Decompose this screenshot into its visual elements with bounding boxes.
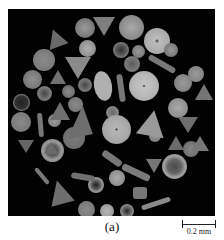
diatom-round: [62, 85, 75, 98]
diatom-elongated: [92, 70, 115, 103]
diatom-round: [78, 78, 92, 92]
diatom-round: [13, 94, 30, 111]
diatom-triangular: [65, 57, 91, 79]
diatom-triangular: [44, 142, 58, 154]
diatom-round: [129, 71, 159, 101]
diatom-triangular: [18, 140, 34, 153]
diatom-round: [162, 154, 187, 179]
diatom-triangular: [45, 177, 74, 206]
diatom-triangular: [61, 105, 93, 140]
diatom-round: [33, 49, 55, 71]
diatom-round: [119, 15, 144, 40]
scale-bar: 0.2 mm: [182, 220, 216, 240]
diatom-round: [109, 170, 125, 186]
diatom-round: [124, 56, 140, 72]
diatom-round: [23, 70, 42, 89]
diatom-round: [100, 204, 114, 216]
diatom-triangular: [44, 26, 69, 50]
micrograph-panel: [8, 9, 215, 216]
diatom-elongated: [116, 74, 126, 103]
diatom-triangular: [146, 159, 162, 173]
diatom-round: [75, 18, 95, 38]
diatom-round: [120, 204, 134, 216]
diatom-triangular: [50, 70, 66, 84]
diatom-elongated: [133, 187, 147, 199]
diatom-triangular: [191, 136, 209, 151]
diatom-elongated: [101, 149, 123, 167]
diatom-elongated: [71, 172, 96, 182]
diatom-round: [102, 115, 131, 144]
diatom-elongated: [34, 167, 50, 185]
diatom-round: [164, 43, 178, 57]
diatom-round: [168, 98, 188, 118]
diatom-triangular: [93, 17, 115, 36]
diatom-round: [78, 201, 95, 216]
diatom-round: [37, 86, 52, 101]
diatom-triangular: [168, 136, 184, 150]
diatom-round: [188, 66, 204, 82]
scale-bar-label: 0.2 mm: [182, 227, 216, 236]
diatom-round: [11, 112, 31, 132]
diatom-triangular: [178, 117, 198, 133]
diatom-elongated: [37, 113, 44, 137]
diatom-triangular: [136, 108, 168, 138]
diatom-round: [113, 42, 129, 58]
diatom-round: [79, 40, 96, 57]
diatom-elongated: [148, 54, 177, 74]
scale-bar-line: [182, 224, 216, 225]
diatom-triangular: [195, 84, 213, 100]
